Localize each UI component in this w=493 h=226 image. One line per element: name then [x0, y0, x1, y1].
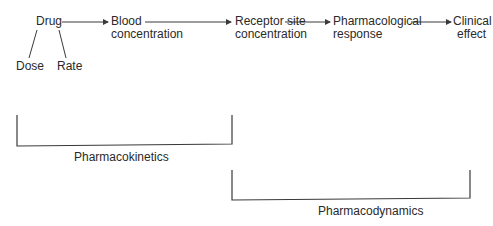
- drug-dose-line: [29, 30, 37, 58]
- pharmacokinetics-bracket: [17, 115, 232, 146]
- node-receptor-line2: concentration: [235, 27, 307, 41]
- node-clinical-line1: Clinical: [453, 14, 492, 28]
- node-clinical-line2: effect: [457, 27, 486, 41]
- pharmacodynamics-label: Pharmacodynamics: [318, 204, 423, 218]
- node-dose: Dose: [16, 59, 44, 73]
- node-pharmacological-line2: response: [333, 27, 382, 41]
- drug-rate-line: [59, 30, 66, 58]
- node-blood-line1: Blood: [111, 14, 142, 28]
- node-pharmacological-line1: Pharmacological: [333, 14, 422, 28]
- node-rate: Rate: [57, 59, 82, 73]
- node-receptor-line1: Receptor site: [235, 14, 306, 28]
- pharmacodynamics-bracket: [232, 170, 470, 200]
- pharmacokinetics-label: Pharmacokinetics: [74, 150, 169, 164]
- node-drug: Drug: [36, 14, 62, 28]
- node-blood-line2: concentration: [111, 27, 183, 41]
